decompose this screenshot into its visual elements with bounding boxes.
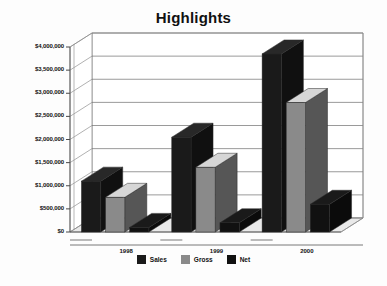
y-axis-tick-label: $500,000 <box>2 205 64 211</box>
legend-label: Net <box>240 256 250 263</box>
y-axis-tick-label: $4,000,000 <box>2 43 64 49</box>
legend-swatch-icon <box>137 255 146 264</box>
legend-label: Sales <box>150 256 167 263</box>
y-axis-tick-label: $2,000,000 <box>2 136 64 142</box>
legend-item-gross[interactable]: Gross <box>181 255 213 264</box>
x-axis-tick-label-1999: 1999 <box>192 248 242 254</box>
legend-swatch-icon <box>181 255 190 264</box>
chart-container: Highlights $0$500,000$1,000,000$1,500,00… <box>0 0 387 286</box>
y-axis-tick-label: $3,000,000 <box>2 89 64 95</box>
y-axis-tick-label: $1,500,000 <box>2 159 64 165</box>
chart-legend: SalesGrossNet <box>0 255 387 264</box>
legend-item-net[interactable]: Net <box>227 255 250 264</box>
plot-area: $0$500,000$1,000,000$1,500,000$2,000,000… <box>0 0 387 286</box>
y-axis-tick-label: $3,500,000 <box>2 66 64 72</box>
y-axis-tick-label: $1,000,000 <box>2 182 64 188</box>
legend-swatch-icon <box>227 255 236 264</box>
legend-item-sales[interactable]: Sales <box>137 255 167 264</box>
x-axis-tick-label-2000: 2000 <box>282 248 332 254</box>
y-axis-tick-label: $2,500,000 <box>2 112 64 118</box>
legend-label: Gross <box>194 256 213 263</box>
x-axis-tick-label-1998: 1998 <box>101 248 151 254</box>
y-axis-tick-label: $0 <box>2 228 64 234</box>
